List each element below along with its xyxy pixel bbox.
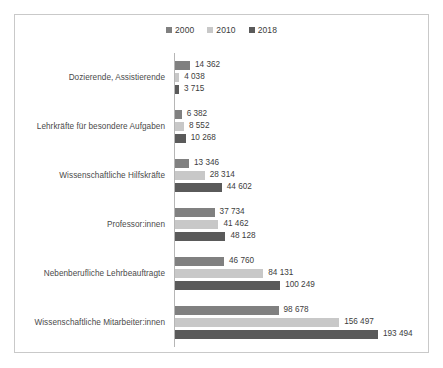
legend-label-2000: 2000 bbox=[175, 26, 194, 35]
legend-entry-2010[interactable]: 2010 bbox=[207, 26, 235, 35]
bar-2010[interactable] bbox=[175, 318, 339, 327]
category-label: Wissenschaftliche Mitarbeiter:innen bbox=[15, 318, 170, 327]
bar-value-label: 3 715 bbox=[184, 85, 205, 93]
bar-value-label: 156 497 bbox=[344, 318, 374, 326]
category-label: Professor:innen bbox=[15, 220, 170, 229]
bar-2010[interactable] bbox=[175, 73, 179, 82]
bar-value-label: 44 602 bbox=[227, 183, 252, 191]
bar-group: Wissenschaftliche Hilfskräfte13 34628 31… bbox=[15, 151, 430, 200]
bar-line: 156 497 bbox=[175, 318, 430, 327]
bar-2000[interactable] bbox=[175, 61, 190, 70]
bar-value-label: 14 362 bbox=[195, 61, 220, 69]
bar-line: 41 462 bbox=[175, 220, 430, 229]
category-label: Nebenberufliche Lehrbeauftragte bbox=[15, 269, 170, 278]
bar-line: 44 602 bbox=[175, 183, 430, 192]
category-label: Wissenschaftliche Hilfskräfte bbox=[15, 171, 170, 180]
bar-line: 10 268 bbox=[175, 134, 430, 143]
bar-2018[interactable] bbox=[175, 281, 280, 290]
bar-line: 6 382 bbox=[175, 110, 430, 119]
bar-2000[interactable] bbox=[175, 257, 224, 266]
legend-entry-2000[interactable]: 2000 bbox=[166, 26, 194, 35]
bar-group-bars: 98 678156 497193 494 bbox=[175, 298, 430, 347]
bar-group-bars: 14 3624 0383 715 bbox=[175, 53, 430, 102]
bar-2018[interactable] bbox=[175, 134, 186, 143]
legend-swatch-2018 bbox=[249, 27, 255, 33]
bar-2010[interactable] bbox=[175, 220, 218, 229]
category-label: Lehrkräfte für besondere Aufgaben bbox=[15, 122, 170, 131]
bar-line: 14 362 bbox=[175, 61, 430, 70]
bar-group-bars: 6 3828 55210 268 bbox=[175, 102, 430, 151]
bar-group: Dozierende, Assistierende14 3624 0383 71… bbox=[15, 53, 430, 102]
bar-2000[interactable] bbox=[175, 159, 189, 168]
bar-group-bars: 37 73441 46248 128 bbox=[175, 200, 430, 249]
bar-group-bars: 46 76084 131100 249 bbox=[175, 249, 430, 298]
bar-group: Wissenschaftliche Mitarbeiter:innen98 67… bbox=[15, 298, 430, 347]
bar-value-label: 46 760 bbox=[229, 257, 254, 265]
bar-line: 98 678 bbox=[175, 306, 430, 315]
bar-group: Lehrkräfte für besondere Aufgaben6 3828 … bbox=[15, 102, 430, 151]
bar-group-bars: 13 34628 31444 602 bbox=[175, 151, 430, 200]
bar-2010[interactable] bbox=[175, 171, 205, 180]
bar-group: Professor:innen37 73441 46248 128 bbox=[15, 200, 430, 249]
bar-value-label: 4 038 bbox=[184, 73, 205, 81]
bar-line: 46 760 bbox=[175, 257, 430, 266]
bar-line: 28 314 bbox=[175, 171, 430, 180]
legend-label-2018: 2018 bbox=[258, 26, 277, 35]
bar-line: 193 494 bbox=[175, 330, 430, 339]
plot-frame: 2000 2010 2018 Dozierende, Assistierende… bbox=[14, 14, 429, 353]
bar-2018[interactable] bbox=[175, 330, 378, 339]
bar-value-label: 41 462 bbox=[223, 220, 248, 228]
bar-value-label: 10 268 bbox=[191, 134, 216, 142]
bar-line: 8 552 bbox=[175, 122, 430, 131]
bar-value-label: 13 346 bbox=[194, 159, 219, 167]
bar-2010[interactable] bbox=[175, 122, 184, 131]
chart-figure: 2000 2010 2018 Dozierende, Assistierende… bbox=[0, 0, 443, 368]
bar-value-label: 6 382 bbox=[187, 110, 208, 118]
figure-caption bbox=[0, 356, 443, 368]
bar-line: 84 131 bbox=[175, 269, 430, 278]
legend-swatch-2000 bbox=[166, 27, 172, 33]
bar-2018[interactable] bbox=[175, 183, 222, 192]
bar-value-label: 28 314 bbox=[210, 171, 235, 179]
bar-value-label: 37 734 bbox=[220, 208, 245, 216]
bar-value-label: 193 494 bbox=[383, 330, 413, 338]
bar-2000[interactable] bbox=[175, 208, 215, 217]
bar-value-label: 98 678 bbox=[284, 306, 309, 314]
bar-line: 100 249 bbox=[175, 281, 430, 290]
bar-line: 37 734 bbox=[175, 208, 430, 217]
bar-2000[interactable] bbox=[175, 110, 182, 119]
bar-line: 4 038 bbox=[175, 73, 430, 82]
bar-2000[interactable] bbox=[175, 306, 279, 315]
category-label: Dozierende, Assistierende bbox=[15, 73, 170, 82]
bar-value-label: 48 128 bbox=[230, 232, 255, 240]
bar-value-label: 84 131 bbox=[268, 269, 293, 277]
legend-swatch-2010 bbox=[207, 27, 213, 33]
chart-legend: 2000 2010 2018 bbox=[15, 26, 428, 35]
bar-value-label: 100 249 bbox=[285, 281, 315, 289]
bar-2010[interactable] bbox=[175, 269, 263, 278]
legend-entry-2018[interactable]: 2018 bbox=[249, 26, 277, 35]
bar-line: 48 128 bbox=[175, 232, 430, 241]
legend-label-2010: 2010 bbox=[216, 26, 235, 35]
bar-groups: Dozierende, Assistierende14 3624 0383 71… bbox=[15, 53, 430, 347]
bar-2018[interactable] bbox=[175, 232, 225, 241]
bar-line: 13 346 bbox=[175, 159, 430, 168]
bar-group: Nebenberufliche Lehrbeauftragte46 76084 … bbox=[15, 249, 430, 298]
bar-value-label: 8 552 bbox=[189, 122, 210, 130]
bar-2018[interactable] bbox=[175, 85, 179, 94]
plot-body: Dozierende, Assistierende14 3624 0383 71… bbox=[15, 51, 430, 349]
bar-line: 3 715 bbox=[175, 85, 430, 94]
